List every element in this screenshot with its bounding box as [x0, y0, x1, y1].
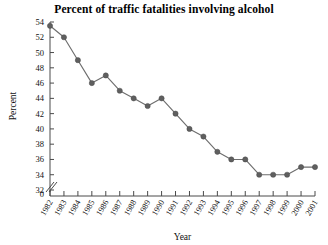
y-axis-ticks [50, 22, 54, 190]
y-axis-title: Percent [8, 91, 18, 120]
data-point-marker [257, 172, 262, 177]
x-tick-label: 1988 [122, 199, 138, 218]
data-point-marker [312, 164, 317, 169]
y-tick-label: 40 [36, 124, 45, 134]
data-point-marker [47, 23, 52, 28]
data-point-marker [131, 96, 136, 101]
data-point-marker [187, 126, 192, 131]
data-point-marker [298, 164, 303, 169]
y-tick-label: 44 [36, 93, 45, 103]
x-axis-ticks [50, 191, 315, 196]
data-point-marker [285, 172, 290, 177]
x-tick-label: 1985 [80, 199, 96, 218]
data-point-marker [103, 73, 108, 78]
x-tick-label: 2000 [290, 199, 306, 218]
chart-axes [50, 22, 315, 196]
data-point-marker [229, 157, 234, 162]
data-point-marker [201, 134, 206, 139]
data-point-marker [117, 88, 122, 93]
x-axis-line [50, 190, 315, 196]
x-axis-tick-labels: 1982198319841985198619871988198919901991… [39, 198, 320, 218]
x-tick-label: 1982 [39, 199, 55, 218]
y-tick-label: 34 [36, 170, 45, 180]
x-tick-label: 1986 [94, 199, 110, 218]
y-tick-label: 36 [36, 154, 45, 164]
x-tick-label: 1998 [262, 199, 278, 218]
x-tick-label: 1989 [136, 199, 152, 218]
line-chart-plot: 545250484644424038363432 0 1982198319841… [0, 0, 328, 245]
x-tick-label: 1997 [248, 199, 264, 218]
x-tick-label: 1992 [178, 199, 194, 218]
data-point-marker [243, 157, 248, 162]
data-point-marker [61, 35, 66, 40]
x-tick-label: 2001 [304, 199, 320, 218]
data-point-markers [47, 23, 317, 177]
data-point-marker [173, 111, 178, 116]
data-point-marker [75, 58, 80, 63]
x-tick-label: 1990 [150, 199, 166, 218]
x-tick-label: 1995 [220, 199, 236, 218]
x-tick-label: 1983 [53, 199, 69, 218]
y-tick-label: 38 [36, 139, 45, 149]
x-tick-label: 1994 [206, 198, 223, 218]
x-tick-label: 1984 [67, 198, 84, 218]
y-tick-label: 46 [36, 78, 45, 88]
x-tick-label: 1999 [276, 199, 292, 218]
x-tick-label: 1996 [234, 199, 250, 218]
data-point-marker [271, 172, 276, 177]
series-line-alcohol-fatalities [50, 26, 315, 175]
y-axis-tick-labels: 545250484644424038363432 [36, 17, 45, 195]
y-tick-label: 42 [36, 109, 45, 119]
data-point-marker [145, 103, 150, 108]
x-tick-label: 1987 [108, 199, 124, 218]
y-tick-label: 52 [36, 32, 45, 42]
x-tick-label: 1991 [164, 199, 180, 218]
y-tick-label: 48 [36, 63, 45, 73]
y-tick-label: 50 [36, 48, 45, 58]
data-point-marker [89, 80, 94, 85]
y-origin-label: 0 [40, 189, 44, 199]
chart-container: Percent of traffic fatalities involving … [0, 0, 328, 245]
x-tick-label: 1993 [192, 199, 208, 218]
x-axis-title: Year [174, 232, 192, 242]
data-point-marker [159, 96, 164, 101]
y-axis-origin-label: 0 [40, 189, 44, 199]
y-tick-label: 54 [36, 17, 45, 27]
data-series [50, 26, 315, 175]
data-point-marker [215, 149, 220, 154]
